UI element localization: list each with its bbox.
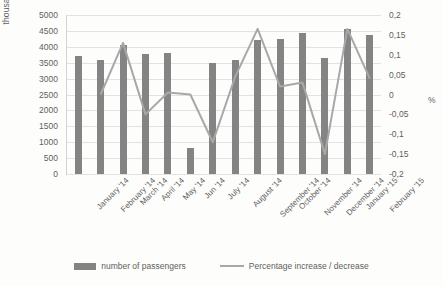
y-left-tick: 5000 bbox=[39, 10, 62, 20]
chart-container: thousand person % 5000450040003500300025… bbox=[0, 0, 443, 286]
plot-area bbox=[66, 15, 381, 175]
y-right-tick: 0,05 bbox=[384, 70, 406, 80]
legend-line-swatch-icon bbox=[220, 265, 244, 268]
y-right-tick: 0 bbox=[384, 90, 394, 100]
y-left-tick: 2000 bbox=[39, 105, 62, 115]
y-right-tick: -0,15 bbox=[384, 149, 408, 159]
y-right-tick: 0,2 bbox=[384, 10, 401, 20]
y-left-tick: 1000 bbox=[39, 137, 62, 147]
legend-label: Percentage increase / decrease bbox=[249, 261, 369, 271]
legend-item[interactable]: Percentage increase / decrease bbox=[220, 261, 369, 271]
x-axis-tick-label: August '14 bbox=[251, 176, 284, 209]
y-right-tick: -0,1 bbox=[384, 129, 404, 139]
line-series-percentage bbox=[67, 15, 381, 174]
line-path bbox=[101, 29, 370, 154]
y-axis-left-ticks: 5000450040003500300025002000150010005000 bbox=[0, 0, 62, 190]
y-right-tick: 0,15 bbox=[384, 30, 406, 40]
y-left-tick: 3000 bbox=[39, 74, 62, 84]
y-left-tick: 0 bbox=[53, 169, 62, 179]
x-axis-tick-label: Jun '14 bbox=[203, 176, 227, 200]
y-left-tick: 3500 bbox=[39, 58, 62, 68]
x-axis-category-labels: January '14February '14March '14April '1… bbox=[66, 176, 380, 246]
y-left-tick: 500 bbox=[44, 153, 62, 163]
y-right-tick: 0,1 bbox=[384, 50, 401, 60]
y-left-tick: 4500 bbox=[39, 26, 62, 36]
y-left-tick: 1500 bbox=[39, 121, 62, 131]
y-left-tick: 2500 bbox=[39, 90, 62, 100]
y-right-tick: -0,05 bbox=[384, 109, 408, 119]
gridline bbox=[67, 174, 381, 175]
legend-label: number of passengers bbox=[101, 261, 186, 271]
x-axis-tick-label: July '14 bbox=[226, 176, 251, 201]
chart-legend: number of passengersPercentage increase … bbox=[0, 255, 443, 277]
y-axis-right-ticks: 0,20,150,10,050-0,05-0,1-0,15-0,2 bbox=[384, 0, 443, 190]
legend-item[interactable]: number of passengers bbox=[74, 261, 186, 271]
y-left-tick: 4000 bbox=[39, 42, 62, 52]
legend-bar-swatch-icon bbox=[74, 263, 96, 270]
